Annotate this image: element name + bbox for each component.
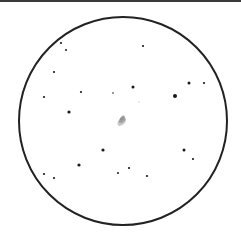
star	[65, 49, 67, 51]
star	[183, 149, 186, 152]
star	[188, 82, 191, 85]
star	[117, 172, 119, 174]
galaxy-smudge	[116, 115, 128, 128]
eyepiece-field-drawing	[0, 0, 241, 243]
star	[203, 82, 205, 84]
star	[132, 86, 135, 89]
star	[53, 71, 55, 73]
star	[192, 158, 194, 160]
star	[43, 173, 45, 175]
star	[101, 148, 104, 151]
star	[80, 91, 82, 93]
star	[138, 101, 139, 102]
star	[173, 94, 177, 98]
star	[60, 42, 62, 44]
star	[67, 110, 70, 113]
star	[112, 92, 114, 94]
star	[43, 96, 45, 98]
star-field	[43, 42, 205, 179]
star	[77, 163, 80, 166]
star	[128, 167, 130, 169]
star	[146, 175, 148, 177]
star	[142, 45, 144, 47]
star	[53, 177, 55, 179]
